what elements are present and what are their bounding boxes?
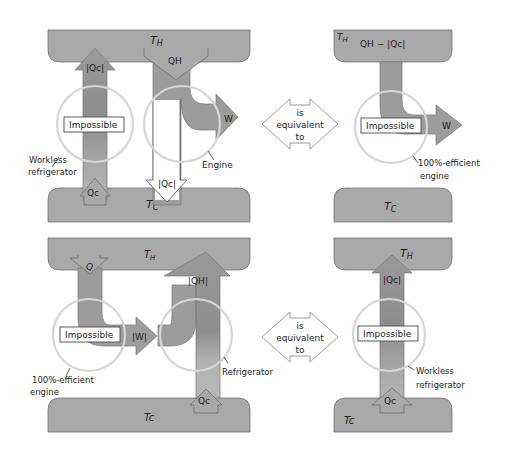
q-label: Q [86, 262, 93, 272]
work-label-right: W [442, 121, 451, 131]
qc-label: |Qc| [86, 63, 104, 73]
impossible-text-bottom-right: Impossible [363, 329, 412, 339]
efficient-engine-caption-2: engine [420, 171, 449, 181]
cold-reservoir-label-bottom-right: Tc [344, 415, 355, 426]
qh-out-label: |QH| [188, 276, 208, 286]
efficient-engine-caption-bottom-2: engine [30, 387, 59, 397]
workless-refrigerator-caption: Workless [29, 155, 68, 165]
qc-up-label-right: |Qc| [383, 275, 401, 285]
net-heat-label: QH − |Qc| [360, 39, 405, 49]
second-law-equivalence-diagram: TH TC |Qc| Qc QH W |Qc| Impossible Workl… [0, 0, 514, 455]
cold-reservoir-label-bottom: Tc [144, 412, 155, 423]
workless-refrigerator-caption-2: refrigerator [28, 167, 77, 177]
bottom-equivalence-arrow: is equivalent to [262, 312, 338, 362]
top-equivalence-arrow: is equivalent to [262, 99, 338, 149]
top-left-panel: TH TC |Qc| Qc QH W |Qc| Impossible Workl… [28, 30, 250, 222]
impossible-text-bottom: Impossible [65, 330, 114, 340]
equiv-text-b2: equivalent [276, 333, 324, 343]
w-label: |W| [132, 332, 147, 342]
impossible-text: Impossible [69, 120, 118, 130]
qc-in-label-bottom-right: Qc [384, 396, 396, 406]
equiv-text-3: to [295, 132, 305, 142]
bottom-left-panel: TH |QH| Q |W| Impossible 100%-efficient … [30, 238, 273, 432]
qc-inlet-label: Qc [87, 188, 99, 198]
refrigerator-curve [158, 285, 196, 346]
equiv-text-b3: to [295, 345, 305, 355]
impossible-text-right: Impossible [366, 121, 415, 131]
workless-refrigerator-caption-right-2: refrigerator [416, 380, 465, 390]
equiv-text-2: equivalent [276, 120, 324, 130]
qh-label: QH [168, 56, 182, 66]
engine-caption: Engine [202, 160, 233, 170]
work-label: W [224, 114, 233, 124]
equiv-text-b1: is [296, 321, 304, 331]
efficient-engine-caption-bottom: 100%-efficient [32, 375, 94, 385]
top-right-panel: TH QH − |Qc| W Impossible 100%-efficient… [334, 30, 480, 222]
qc-in-label-bottom: Qc [198, 396, 210, 406]
refrigerator-caption: Refrigerator [222, 367, 273, 377]
qc-exhaust-label: |Qc| [158, 179, 176, 189]
efficient-engine-caption: 100%-efficient [418, 158, 480, 168]
equiv-text-1: is [296, 108, 304, 118]
workless-refrigerator-caption-right: Workless [416, 366, 455, 376]
bottom-right-panel: TH |Qc| Impossible Workless refrigerator… [334, 238, 465, 432]
